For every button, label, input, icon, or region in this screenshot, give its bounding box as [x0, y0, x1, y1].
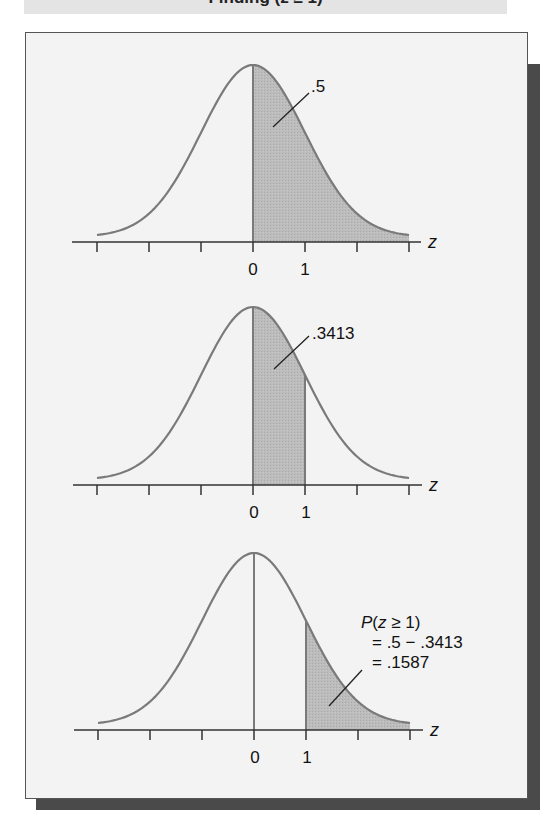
probability-expression: P(z ≥ 1): [361, 613, 420, 632]
probability-step-subtraction: = .5 − .3413: [372, 633, 463, 652]
tick-label-1: 1: [300, 260, 309, 279]
tick-label-1: 1: [302, 748, 311, 767]
panel-2-zero-to-one: .3413 0 1 z: [73, 307, 438, 522]
area-label: .5: [311, 77, 325, 96]
tick-label-0: 0: [249, 503, 258, 522]
shaded-area: [253, 65, 409, 242]
area-label: .3413: [312, 324, 355, 343]
tick-label-0: 0: [248, 260, 257, 279]
panel-1-half-area: .5 0 1 z: [72, 65, 437, 279]
x-axis-ticks: [98, 730, 410, 740]
probability-result: = .1587: [372, 653, 429, 672]
x-axis-ticks: [97, 242, 409, 252]
shaded-area: [253, 307, 305, 485]
tick-label-1: 1: [301, 503, 310, 522]
panel-3-upper-tail: P(z ≥ 1) = .5 − .3413 = .1587 0 1 z: [74, 553, 463, 767]
x-axis-ticks: [97, 485, 409, 495]
tick-label-0: 0: [250, 748, 259, 767]
normal-curves-figure: .5 0 1 z .3413 0 1 z P(z ≥ 1) = .5 − .34…: [0, 0, 557, 817]
axis-label-z: z: [429, 720, 439, 740]
axis-label-z: z: [427, 232, 437, 252]
axis-label-z: z: [428, 475, 438, 495]
